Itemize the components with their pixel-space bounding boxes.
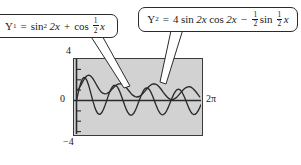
y1-exponent: 2: [44, 23, 48, 30]
y1-equals: =: [20, 21, 26, 32]
callout-y2: Y2 = 4 sin 2x cos 2x − 1 2 sin 1 2 x: [138, 7, 298, 32]
y2-frac2-numerator: 1: [277, 11, 283, 19]
y2-formula: Y2 = 4 sin 2x cos 2x − 1 2 sin 1 2 x: [147, 11, 288, 28]
y1-variable: x: [100, 21, 105, 32]
y2-cos: cos: [209, 14, 224, 25]
y2-symbol: Y: [147, 14, 155, 25]
callout-y1: Y1 = sin2 2x + cos 1 2 x: [0, 14, 118, 38]
axis-label-y-max: 4: [66, 45, 71, 56]
y1-subscript: 1: [13, 23, 17, 30]
y2-frac2-denominator: 2: [277, 19, 283, 28]
callout-y2-pointer: [150, 26, 190, 88]
callout-y1-pointer: [86, 32, 146, 90]
axis-label-y-min: −4: [63, 136, 74, 147]
axis-label-x-max: 2π: [206, 93, 216, 104]
y1-arg1: 2x: [50, 21, 60, 32]
y2-minus: −: [241, 14, 247, 25]
y2-arg2: 2x: [226, 14, 236, 25]
y2-sin2: sin: [260, 14, 273, 25]
y2-coefficient: 4: [173, 14, 179, 25]
axis-label-origin: 0: [60, 93, 65, 104]
y2-frac1-denominator: 2: [252, 19, 258, 28]
y2-variable: x: [284, 14, 289, 25]
y1-frac-denominator: 2: [93, 25, 99, 34]
y1-plus: +: [64, 21, 70, 32]
y1-symbol: Y: [5, 21, 13, 32]
y1-formula: Y1 = sin2 2x + cos 1 2 x: [5, 18, 105, 35]
y1-sin: sin: [31, 21, 44, 32]
calculator-figure: Y1 = sin2 2x + cos 1 2 x Y2 = 4 sin 2x c…: [0, 0, 301, 165]
y2-frac1-numerator: 1: [252, 11, 258, 19]
y2-fraction-half-1: 1 2: [252, 11, 258, 28]
y2-subscript: 2: [155, 16, 159, 23]
y1-cos: cos: [74, 21, 89, 32]
y2-fraction-half-2: 1 2: [277, 11, 283, 28]
y1-fraction-half: 1 2: [93, 17, 99, 34]
y2-equals: =: [163, 14, 169, 25]
y2-sin1: sin: [181, 14, 194, 25]
y2-arg1: 2x: [196, 14, 206, 25]
y1-frac-numerator: 1: [93, 17, 99, 25]
